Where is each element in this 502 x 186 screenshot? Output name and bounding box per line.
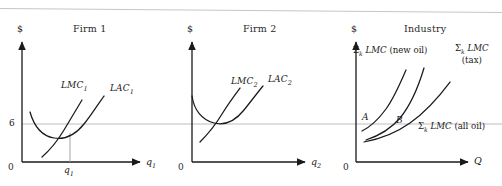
curve-lmc2 [200,88,240,142]
panel-industry-axes [356,42,468,162]
firm-1-origin-label: 0 [8,163,14,172]
sigma-qualifier-new-oil: (new oil) [389,45,427,55]
panel-firm-1-curves [30,96,104,157]
scan-edge-line [0,9,502,13]
curve-sum-lmc-tax [366,68,424,140]
firm-1-x-axis-label: q1 [146,157,156,169]
curve-label-lac1: LAC1 [110,84,134,95]
industry-origin-label: 0 [343,163,349,172]
curve-sum-lmc-all-oil [364,82,450,142]
industry-point-a-label: A [362,113,369,122]
price-tick-label: 6 [9,119,15,128]
firm-2-x-axis-subscript: 2 [317,162,321,170]
curve-label-lac2-subscript: 2 [288,79,292,87]
industry-y-axis-label: $ [351,24,357,34]
sigma-body-new-oil: LMC [366,45,387,55]
curve-label-lac1-subscript: 1 [130,88,134,96]
curve-label-lac1-text: LAC [110,83,130,93]
panel-title-firm-1: Firm 1 [73,24,106,34]
firm-2-x-axis-label: q2 [311,157,321,169]
curve-label-sum-lmc-all-oil: Σk LMC (all oil) [418,122,485,133]
panel-firm-2-curves [192,86,263,142]
curve-label-lmc1-text: LMC [61,80,83,90]
industry-point-b-label: B [396,116,403,125]
firm-1-y-axis-label: $ [17,24,23,34]
curve-label-lac2-text: LAC [268,74,288,84]
sigma-body-all-oil: LMC [431,121,452,131]
curve-label-sum-lmc-new-oil: Σk LMC (new oil) [353,46,427,57]
curve-lmc1 [42,100,82,157]
curve-label-sum-lmc-tax: Σk LMC (tax) [455,43,489,66]
curve-label-lmc2-subscript: 2 [253,81,257,89]
panel-title-firm-2: Firm 2 [243,24,276,34]
panel-title-industry: Industry [404,24,446,34]
sigma-qualifier-tax: (tax) [462,55,482,65]
firm-2-origin-label: 0 [178,163,184,172]
firm-1-q1-tick-subscript: 1 [70,170,74,178]
firm-2-y-axis-label: $ [187,24,193,34]
economics-figure: 6 Firm 1 $ q1 0 q1 LMC1 LAC1 Firm 2 $ q2… [0,0,502,186]
curve-lac1 [30,96,104,138]
sigma-qualifier-all-oil: (all oil) [454,121,485,131]
curve-label-lmc2-text: LMC [231,76,253,86]
firm-1-x-axis-subscript: 1 [152,162,156,170]
curve-label-lmc1-subscript: 1 [83,85,87,93]
sigma-subscript-new-oil: k [359,50,363,57]
firm-1-q1-tick-label: q1 [64,166,74,177]
curve-label-lac2: LAC2 [268,75,292,86]
sigma-subscript-tax: k [461,48,465,55]
curve-label-lmc2: LMC2 [231,77,258,88]
curve-label-lmc1: LMC1 [61,81,88,92]
industry-x-axis-label: Q [474,156,482,166]
panel-firm-2-axes [192,42,305,162]
sigma-body-tax: LMC [468,43,489,53]
sigma-subscript-all-oil: k [424,126,428,133]
